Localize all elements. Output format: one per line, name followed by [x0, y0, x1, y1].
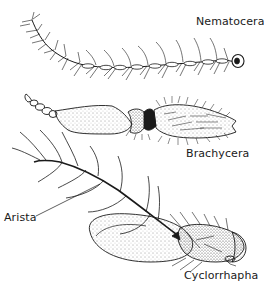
brachycera-antenna [25, 94, 236, 145]
arista-leader-line [36, 184, 100, 216]
label-cyclorrhapha: Cyclorrhapha [184, 269, 258, 282]
antenna-diagram [0, 0, 264, 287]
label-brachycera: Brachycera [186, 147, 249, 160]
label-arista: Arista [4, 211, 37, 224]
label-nematocera: Nematocera [196, 15, 264, 28]
